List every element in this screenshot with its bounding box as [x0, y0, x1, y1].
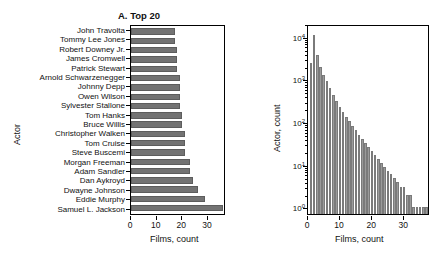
panel-a-bar-row — [131, 158, 224, 165]
panel-b-y-minor-tick — [305, 87, 307, 88]
panel-a-category-label: Bruce Willis — [0, 121, 125, 128]
panel-b-y-minor-tick — [305, 110, 307, 111]
panel-a-category-label: Patrick Stewart — [0, 65, 125, 72]
panel-b-histogram-bar — [319, 67, 322, 214]
panel-a-bar — [131, 149, 185, 155]
panel-a-title: A. Top 20 — [118, 10, 160, 21]
panel-a-bar — [131, 112, 182, 118]
panel-a-bar-row — [131, 37, 224, 44]
panel-a-bar — [131, 47, 177, 53]
panel-b-histogram-bar — [425, 207, 428, 214]
panel-b-y-tick — [303, 80, 307, 81]
panel-a-x-tick-label: 0 — [128, 220, 133, 230]
panel-b-y-minor-tick — [305, 82, 307, 83]
panel-b-y-minor-tick — [305, 103, 307, 104]
panel-b-histogram-bar — [355, 130, 358, 214]
panel-b-histogram-bar — [383, 167, 386, 214]
panel-b-histogram-bar — [351, 126, 354, 214]
panel-a-bar — [131, 196, 205, 202]
panel-a-bar — [131, 56, 177, 62]
panel-b-x-axis-label: Films, count — [335, 234, 384, 244]
panel-b-y-minor-tick — [305, 188, 307, 189]
panel-a-bar — [131, 28, 175, 34]
panel-a-bar-row — [131, 56, 224, 63]
panel-b-y-minor-tick — [305, 179, 307, 180]
panel-a-category-label: Sylvester Stallone — [0, 102, 125, 109]
panel-b-histogram-bar — [374, 155, 377, 214]
panel-b-y-minor-tick — [305, 172, 307, 173]
panel-a-bar-row — [131, 168, 224, 175]
panel-b-y-minor-tick — [305, 196, 307, 197]
panel-a-bar — [131, 84, 180, 90]
panel-a-x-tick-label: 30 — [202, 220, 211, 230]
panel-a-bar-row — [131, 102, 224, 109]
panel-a-bar — [131, 140, 185, 146]
panel-b-histogram-bar — [412, 207, 415, 214]
panel-a-bar — [131, 38, 175, 44]
panel-a-category-label: Johnny Depp — [0, 83, 125, 90]
panel-b-y-minor-tick — [305, 55, 307, 56]
panel-b-y-tick — [303, 208, 307, 209]
panel-a-bar — [131, 66, 177, 72]
panel-b-histogram-bar — [332, 95, 335, 214]
panel-b-y-minor-tick — [305, 51, 307, 52]
panel-b-x-tick-label: 10 — [334, 220, 343, 230]
panel-b-histogram-bar — [393, 178, 396, 214]
panel-b-histogram-bar — [396, 182, 399, 214]
panel-a-x-tick-label: 10 — [151, 220, 160, 230]
panel-b-y-tick — [303, 38, 307, 39]
panel-a-bar — [131, 121, 182, 127]
panel-b-histogram-bar — [367, 147, 370, 214]
panel-b-y-minor-tick — [305, 153, 307, 154]
panel-a-bar-row — [131, 177, 224, 184]
panel-a-category-label: Owen Wilson — [0, 93, 125, 100]
panel-b-histogram-bar — [403, 187, 406, 214]
panel-b-y-minor-tick — [305, 136, 307, 137]
panel-b-y-minor-tick — [305, 90, 307, 91]
panel-a-category-label: Adam Sandler — [0, 168, 125, 175]
panel-b-y-minor-tick — [305, 47, 307, 48]
panel-b-y-minor-tick — [305, 93, 307, 94]
panel-b-histogram-bar — [361, 139, 364, 214]
panel-b-histogram-bar — [348, 121, 351, 214]
panel-a-bar-row — [131, 65, 224, 72]
panel-b-histogram-bars — [308, 26, 428, 214]
panel-b-y-minor-tick — [305, 170, 307, 171]
panel-a-category-label: Tommy Lee Jones — [0, 36, 125, 43]
panel-b-histogram-bar — [329, 88, 332, 214]
panel-a-bar-row — [131, 47, 224, 54]
panel-b-plot-area — [307, 25, 429, 215]
panel-b-x-tick-label: 30 — [399, 220, 408, 230]
panel-a-bar-row — [131, 93, 224, 100]
panel-b-histogram-bar — [416, 207, 419, 214]
panel-a-category-label: Tom Hanks — [0, 112, 125, 119]
panel-b-histogram-bar — [422, 207, 425, 214]
panel-b-y-tick — [303, 123, 307, 124]
panel-b-y-minor-tick — [305, 42, 307, 43]
panel-a-bar-row — [131, 84, 224, 91]
panel-b-y-minor-tick — [305, 25, 307, 26]
figure-root: A. Top 20 Actor John TravoltaTommy Lee J… — [0, 0, 437, 260]
panel-a-category-label: James Cromwell — [0, 55, 125, 62]
panel-b-y-minor-tick — [305, 145, 307, 146]
panel-b-histogram-bar — [326, 81, 329, 214]
panel-b-y-minor-tick — [305, 40, 307, 41]
panel-b-y-minor-tick — [305, 130, 307, 131]
panel-b-y-minor-tick — [305, 175, 307, 176]
panel-a-bar — [131, 205, 223, 211]
panel-a-bar-row — [131, 186, 224, 193]
panel-a-x-axis: 0102030 — [130, 216, 225, 230]
panel-a-category-label: Eddie Murphy — [0, 196, 125, 203]
panel-a-bar — [131, 159, 190, 165]
panel-b-x-tick-label: 0 — [305, 220, 310, 230]
panel-b-y-minor-tick — [305, 68, 307, 69]
panel-a-x-axis-label: Films, count — [150, 234, 199, 244]
panel-b-histogram-bar — [371, 151, 374, 214]
panel-b-histogram-bar — [419, 207, 422, 214]
panel-b-y-minor-tick — [305, 183, 307, 184]
panel-b-y-minor-tick — [305, 127, 307, 128]
panel-b-x-tick-label: 20 — [366, 220, 375, 230]
panel-b-histogram-bar — [409, 195, 412, 214]
panel-a-category-label: Dwayne Johnson — [0, 187, 125, 194]
panel-a-category-label: Robert Downey Jr. — [0, 46, 125, 53]
